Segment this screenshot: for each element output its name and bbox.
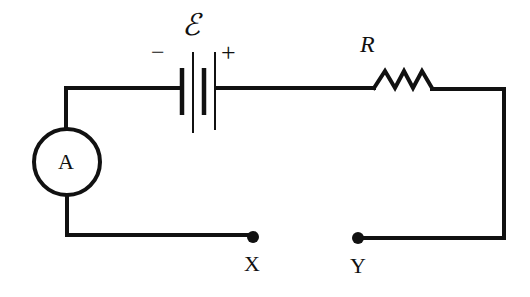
circuit-drawing [0,0,530,297]
resistor-label: R [360,32,375,56]
circuit-diagram: ℰ − + R A X Y [0,0,530,297]
terminal-x-label: X [244,253,260,275]
battery-negative-sign: − [151,40,165,64]
wire-top-left [66,88,180,128]
wire-bottom-left [67,196,253,235]
resistor-icon [374,71,432,88]
terminal-y-label: Y [350,255,366,277]
terminal-x-dot[interactable] [247,231,259,243]
battery-positive-sign: + [221,40,236,66]
ammeter-label: A [58,151,74,173]
emf-label: ℰ [182,10,200,40]
battery-icon [182,52,215,133]
wire-right [358,89,504,238]
terminal-y-dot[interactable] [352,232,364,244]
